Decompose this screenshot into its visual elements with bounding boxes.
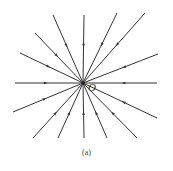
field-line-down-left-2 bbox=[33, 83, 83, 138]
radial-field-diagram bbox=[0, 0, 173, 171]
field-line-up bbox=[82, 15, 85, 83]
arrow-icon bbox=[95, 111, 98, 115]
field-line-down bbox=[82, 83, 85, 138]
arrow-icon bbox=[122, 65, 126, 68]
arrow-icon bbox=[44, 82, 48, 85]
field-line-down-left-1 bbox=[13, 83, 83, 112]
field-line-up-left-1 bbox=[53, 15, 83, 83]
figure-caption: (a) bbox=[0, 148, 173, 157]
field-line-down-left-3 bbox=[58, 83, 83, 138]
arrow-icon bbox=[65, 43, 68, 47]
field-line-up-right-3 bbox=[83, 13, 117, 83]
field-line-up-right-2 bbox=[83, 13, 145, 83]
arrow-icon bbox=[101, 42, 104, 46]
arrow-icon bbox=[122, 101, 126, 104]
field-line-left bbox=[15, 82, 83, 85]
arrow-icon bbox=[122, 82, 126, 85]
arrow-icon bbox=[82, 111, 85, 115]
center-point bbox=[81, 81, 84, 84]
arrow-icon bbox=[67, 111, 70, 115]
field-line-up-left-3 bbox=[20, 53, 83, 83]
arrow-icon bbox=[42, 98, 46, 101]
arrow-icon bbox=[46, 65, 50, 68]
origin-label: O bbox=[88, 81, 96, 93]
field-line-up-left-2 bbox=[35, 33, 83, 83]
arrow-icon bbox=[82, 44, 85, 48]
field-line-up-right-1 bbox=[83, 54, 158, 83]
